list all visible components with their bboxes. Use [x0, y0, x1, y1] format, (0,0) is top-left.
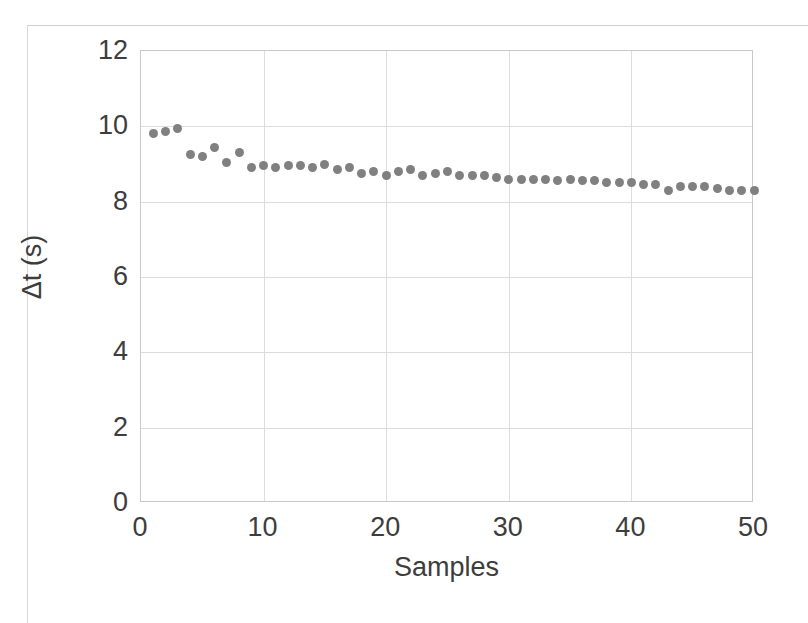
- data-point: [541, 175, 550, 184]
- x-axis-tick-label: 50: [708, 512, 798, 542]
- data-point: [357, 169, 366, 178]
- x-axis-tick-label: 10: [218, 512, 308, 542]
- data-point: [664, 186, 673, 195]
- data-point: [590, 176, 599, 185]
- data-point: [676, 182, 685, 191]
- data-point: [161, 127, 170, 136]
- data-point: [553, 176, 562, 185]
- data-point-layer: [141, 51, 752, 501]
- plot-area: [140, 50, 753, 502]
- data-point: [271, 163, 280, 172]
- data-point: [320, 160, 329, 169]
- data-point: [394, 167, 403, 176]
- data-point: [247, 163, 256, 172]
- y-axis-tick-label: 2: [8, 414, 128, 441]
- data-point: [259, 161, 268, 170]
- data-point: [382, 171, 391, 180]
- data-point: [222, 158, 231, 167]
- data-point: [296, 161, 305, 170]
- data-point: [627, 178, 636, 187]
- data-point: [235, 148, 244, 157]
- data-point: [578, 176, 587, 185]
- x-axis-title: Samples: [140, 552, 753, 582]
- data-point: [345, 163, 354, 172]
- data-point: [639, 180, 648, 189]
- data-point: [651, 180, 660, 189]
- data-point: [308, 163, 317, 172]
- x-axis-tick-label: 20: [340, 512, 430, 542]
- data-point: [284, 161, 293, 170]
- data-point: [566, 175, 575, 184]
- data-point: [725, 186, 734, 195]
- data-point: [468, 171, 477, 180]
- data-point: [529, 175, 538, 184]
- x-axis-tick-label: 30: [463, 512, 553, 542]
- data-point: [492, 173, 501, 182]
- data-point: [369, 167, 378, 176]
- data-point: [198, 152, 207, 161]
- data-point: [688, 182, 697, 191]
- data-point: [173, 124, 182, 133]
- scatter-chart-figure: 024681012 Δt (s) 01020304050 Samples: [0, 0, 808, 623]
- data-point: [615, 178, 624, 187]
- data-point: [333, 165, 342, 174]
- y-axis-title: Δt (s): [17, 197, 47, 337]
- data-point: [418, 171, 427, 180]
- data-point: [443, 167, 452, 176]
- x-axis-tick-labels: 01020304050: [140, 512, 753, 548]
- data-point: [750, 186, 759, 195]
- x-axis-tick-label: 40: [585, 512, 675, 542]
- data-point: [480, 171, 489, 180]
- x-axis-tick-label: 0: [95, 512, 185, 542]
- data-point: [713, 184, 722, 193]
- data-point: [210, 143, 219, 152]
- data-point: [149, 129, 158, 138]
- data-point: [431, 169, 440, 178]
- data-point: [406, 165, 415, 174]
- data-point: [737, 186, 746, 195]
- data-point: [504, 175, 513, 184]
- data-point: [602, 178, 611, 187]
- y-axis-tick-label: 4: [8, 338, 128, 365]
- y-axis-tick-label: 10: [8, 112, 128, 139]
- data-point: [700, 182, 709, 191]
- y-axis-tick-label: 12: [8, 37, 128, 64]
- data-point: [517, 175, 526, 184]
- data-point: [186, 150, 195, 159]
- data-point: [455, 171, 464, 180]
